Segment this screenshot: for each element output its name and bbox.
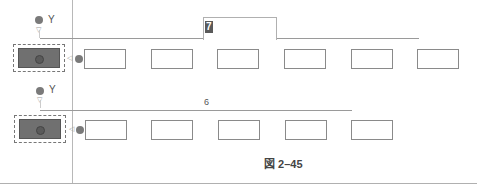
selected-element[interactable] xyxy=(14,115,66,143)
dimension-input[interactable] xyxy=(203,17,277,40)
selected-element[interactable] xyxy=(13,44,65,72)
y-guide-line xyxy=(40,100,41,108)
element-box[interactable] xyxy=(284,49,326,69)
element-box[interactable] xyxy=(151,49,193,69)
element-box[interactable] xyxy=(285,120,327,140)
y-label: Y xyxy=(49,84,56,95)
element-box[interactable] xyxy=(417,49,459,69)
origin-ring-icon xyxy=(36,126,45,135)
element-box[interactable] xyxy=(351,120,393,140)
x-handle-arrow-icon: ◁ xyxy=(67,54,72,62)
dimension-value[interactable]: 7 xyxy=(205,21,213,33)
element-box[interactable] xyxy=(84,49,126,69)
y-anchor-dot-icon[interactable] xyxy=(36,87,44,95)
dimension-line xyxy=(40,110,352,111)
element-box[interactable] xyxy=(85,120,127,140)
x-handle-arrow-icon: ◁ xyxy=(69,125,74,133)
selected-element-fill xyxy=(19,119,61,139)
x-anchor-dot-icon[interactable] xyxy=(75,55,83,63)
frame-left-line xyxy=(72,0,73,183)
element-box[interactable] xyxy=(217,49,259,69)
y-anchor-dot-icon[interactable] xyxy=(35,16,43,24)
x-anchor-dot-icon[interactable] xyxy=(76,126,84,134)
dimension-value: 6 xyxy=(204,97,209,107)
frame-bottom-line xyxy=(0,183,477,184)
selected-element-fill xyxy=(18,48,60,68)
origin-ring-icon xyxy=(35,55,44,64)
element-box[interactable] xyxy=(151,120,193,140)
y-guide-line xyxy=(39,30,40,38)
element-box[interactable] xyxy=(351,49,393,69)
figure-caption: 図 2–45 xyxy=(264,155,303,171)
dimension-line xyxy=(274,38,419,39)
y-label: Y xyxy=(48,14,55,25)
dimension-line xyxy=(40,38,218,39)
element-box[interactable] xyxy=(218,120,260,140)
